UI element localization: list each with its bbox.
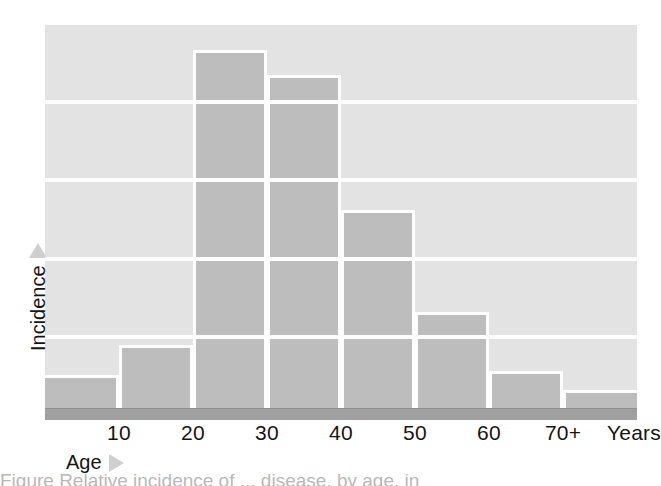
x-tick-label-10: 10: [107, 421, 131, 445]
bar-series: [45, 25, 637, 408]
bar-60-70: [489, 371, 563, 408]
x-tick-label-20: 20: [181, 421, 205, 445]
x-tick-label-50: 50: [403, 421, 427, 445]
bar-70+: [563, 390, 637, 408]
x-axis-unit-label: Years: [607, 421, 661, 445]
x-tick-label-70plus: 70+: [545, 421, 581, 445]
triangle-right-icon: [109, 454, 124, 472]
figure-caption-fragment: Figure Relative incidence of ... disease…: [0, 470, 660, 486]
gridline: [45, 178, 637, 182]
gridline: [45, 335, 637, 339]
bar-0-10: [45, 375, 119, 408]
gridline: [45, 257, 637, 261]
chart-plot-area: [45, 25, 637, 408]
bar-50-60: [415, 312, 489, 408]
x-tick-label-40: 40: [329, 421, 353, 445]
x-axis-tick-labels: 10203040506070+Years: [45, 421, 637, 447]
bar-30-40: [267, 75, 341, 408]
bar-10-20: [119, 345, 193, 408]
bar-40-50: [341, 210, 415, 408]
gridline: [45, 100, 637, 104]
x-axis-baseline-band: [45, 408, 637, 420]
x-tick-label-60: 60: [477, 421, 501, 445]
x-tick-label-30: 30: [255, 421, 279, 445]
